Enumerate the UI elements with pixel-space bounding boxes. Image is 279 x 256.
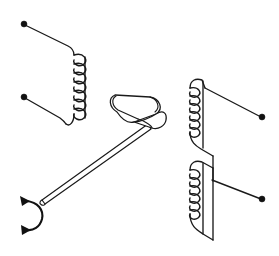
rotation-arrow-head-bottom [21,225,31,235]
rotation-arrow-head-top [20,196,30,206]
rotating-magnet-assembly [40,95,166,205]
right-coil-terminal-upper-dot [259,114,265,120]
left-coil-top-lead-wire [25,25,74,55]
left-coil-bottom-return [66,114,74,125]
right-lower-coil-lead-wire [212,180,261,199]
right-coil-assembly [190,79,265,240]
rotation-arrow [20,196,42,235]
rotation-rod-shaft [42,124,151,204]
right-coil-terminal-lower-dot [259,196,265,202]
rotation-arrow-arc [26,201,42,230]
left-coil-terminal-bottom-dot [21,94,27,100]
right-upper-coil-helix [190,88,200,138]
right-upper-coil-lead-wire [205,88,261,117]
left-coil-assembly [21,21,86,125]
right-upper-coil-bottom-return [190,132,213,156]
right-lower-coil-bottom-return [190,214,213,240]
diagram-root [0,0,279,256]
right-lower-coil-helix [190,170,200,220]
physics-schematic-canvas [0,0,279,256]
right-lower-coil-top-return [190,161,213,170]
left-coil-bottom-lead-wire [25,98,66,124]
left-coil-helix [74,54,86,119]
left-coil-terminal-top-dot [21,21,27,27]
bar-magnet [110,95,166,129]
